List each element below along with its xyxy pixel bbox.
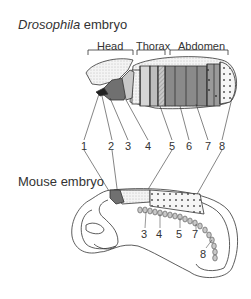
drosophila-number-8: 8 — [219, 140, 225, 152]
drosophila-number-6: 6 — [186, 140, 192, 152]
mouse-number-5: 5 — [176, 228, 182, 240]
drosophila-number-4: 4 — [145, 140, 151, 152]
drosophila-number-5: 5 — [169, 140, 175, 152]
region-brackets — [88, 50, 228, 55]
mouse-number-4: 4 — [156, 228, 162, 240]
drosophila-number-2: 2 — [108, 140, 114, 152]
drosophila-number-7: 7 — [205, 140, 211, 152]
drosophila-embryo — [86, 57, 237, 109]
drosophila-number-1: 1 — [81, 140, 87, 152]
mouse-title: Mouse embryo — [18, 174, 104, 189]
drosophila-number-3: 3 — [125, 140, 131, 152]
mouse-number-8: 8 — [200, 248, 206, 260]
mouse-embryo — [72, 189, 238, 278]
mouse-number-3: 3 — [141, 228, 147, 240]
mouse-number-7: 7 — [192, 228, 198, 240]
